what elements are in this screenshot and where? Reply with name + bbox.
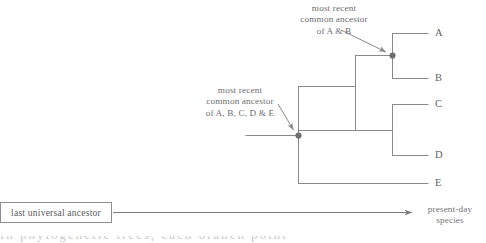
annotation-mrca-all-line1: most recent (178, 85, 302, 96)
tip-label-b: B (435, 72, 442, 83)
clipped-caption-text: In phylogenetic trees, each branch point (0, 236, 486, 243)
annotation-mrca-all-line2: common ancestor (178, 96, 302, 107)
annotation-mrca-ab-line2: common ancestor (282, 14, 386, 25)
tip-label-c: C (435, 98, 442, 109)
clipped-caption-row: In phylogenetic trees, each branch point (0, 236, 486, 243)
present-day-species-label-line2: species (417, 215, 483, 226)
phylogenetic-tree-figure: most recent common ancestor of A & B mos… (0, 0, 486, 243)
node-marker-mrca-all (295, 132, 301, 138)
last-universal-ancestor-box: last universal ancestor (0, 202, 112, 223)
annotation-mrca-ab-line3: of A & B (282, 26, 386, 37)
annotation-mrca-all-line3: of A, B, C, D & E (178, 108, 302, 119)
annotation-mrca-ab: most recent common ancestor of A & B (282, 3, 386, 37)
tip-label-e: E (435, 177, 442, 188)
annotation-mrca-all: most recent common ancestor of A, B, C, … (178, 85, 302, 119)
present-day-species-label: present-day species (417, 204, 483, 226)
present-day-species-label-line1: present-day (417, 204, 483, 215)
node-marker-mrca-ab (389, 52, 395, 58)
tip-label-a: A (435, 27, 443, 38)
tip-label-d: D (435, 149, 443, 160)
last-universal-ancestor-label: last universal ancestor (11, 207, 101, 218)
annotation-mrca-ab-line1: most recent (282, 3, 386, 14)
